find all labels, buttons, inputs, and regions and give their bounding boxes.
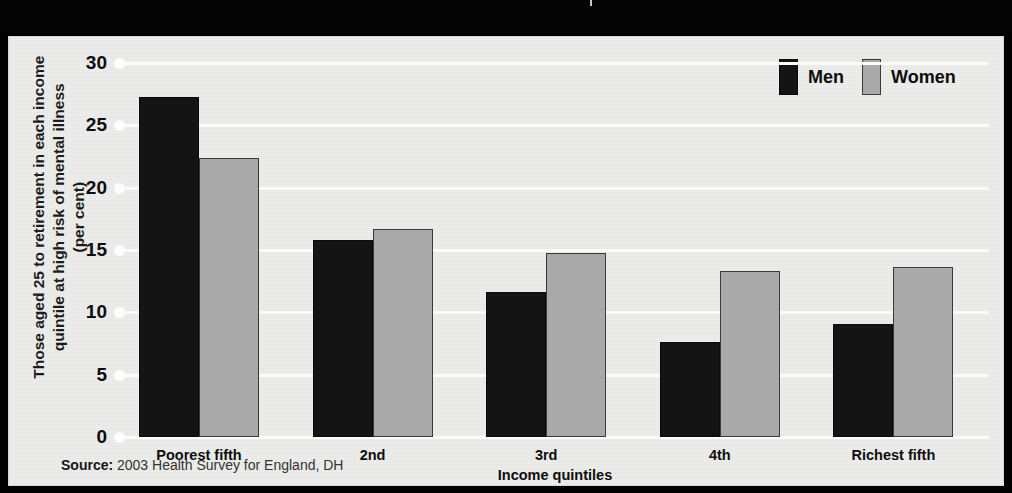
y-axis-tick-dot [114, 120, 125, 131]
bar-men-1 [313, 240, 373, 437]
y-axis-tick-label: 30 [86, 52, 107, 74]
bar-men-0 [139, 97, 199, 437]
bar-women-3 [720, 271, 780, 437]
bar-women-0 [199, 158, 259, 437]
y-axis-tick-label: 0 [96, 426, 107, 448]
y-axis-tick-dot [114, 58, 125, 69]
y-axis-tick-dot [114, 183, 125, 194]
gridline [121, 62, 989, 65]
y-axis-tick-label: 15 [86, 239, 107, 261]
bar-men-4 [833, 324, 893, 437]
plot-area: 051015202530Poorest fifth2nd3rd4thRiches… [121, 63, 989, 437]
y-axis-tick-label: 20 [86, 177, 107, 199]
x-axis-category-label: 4th [709, 447, 731, 463]
x-axis-category-label: 3rd [535, 447, 558, 463]
bar-men-3 [660, 342, 720, 437]
source-note-prefix: Source: [61, 457, 113, 473]
header-title: incomes. [22, 0, 153, 6]
bar-women-1 [373, 229, 433, 437]
bar-women-4 [893, 267, 953, 437]
header-divider-rule [590, 0, 592, 6]
y-axis-tick-label: 5 [96, 364, 107, 386]
y-axis-tick-dot [114, 307, 125, 318]
y-axis-title: Those aged 25 to retirement in each inco… [29, 17, 89, 417]
y-axis-title-line-2: quintile at high risk of mental illness [49, 17, 69, 417]
y-axis-tick-dot [114, 432, 125, 443]
y-axis-tick-dot [114, 370, 125, 381]
y-axis-tick-dot [114, 245, 125, 256]
bar-women-2 [546, 253, 606, 438]
chart-figure: incomes. Those aged 25 to retirement in … [0, 0, 1012, 493]
source-note: Source: 2003 Health Survey for England, … [61, 457, 343, 473]
y-axis-tick-label: 10 [86, 301, 107, 323]
x-axis-category-label: 2nd [360, 447, 386, 463]
chart-panel: Those aged 25 to retirement in each inco… [8, 36, 1004, 486]
x-axis-title: Income quintiles [498, 467, 612, 483]
source-note-text: 2003 Health Survey for England, DH [113, 457, 343, 473]
y-axis-title-line-1: Those aged 25 to retirement in each inco… [29, 17, 49, 417]
bar-men-2 [486, 292, 546, 437]
header-band: incomes. [0, 0, 1012, 33]
y-axis-title-line-3: (per cent) [69, 17, 89, 417]
x-axis-category-label: Richest fifth [852, 447, 936, 463]
y-axis-tick-label: 25 [86, 114, 107, 136]
gridline [121, 124, 989, 127]
